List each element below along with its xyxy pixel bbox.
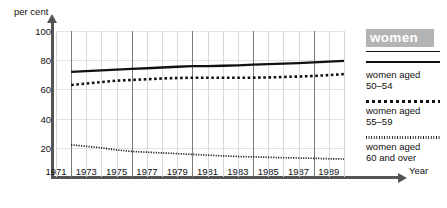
legend-divider bbox=[366, 51, 440, 52]
legend-item: women aged 60 and over bbox=[366, 136, 444, 163]
y-tick-label: 100 bbox=[17, 26, 51, 37]
vertical-gridline bbox=[344, 31, 345, 177]
series-line bbox=[71, 74, 344, 85]
y-tick-label: 80 bbox=[17, 55, 51, 66]
y-tick-label: 40 bbox=[17, 113, 51, 124]
y-axis-line bbox=[51, 22, 54, 178]
y-axis-ticks: 20406080100 bbox=[0, 0, 51, 208]
legend-entries: women aged 50–54women aged 55–59women ag… bbox=[366, 61, 444, 163]
chart-figure: per cent Year 20406080100 19711973197519… bbox=[0, 0, 447, 208]
legend-item-label: women aged 50–54 bbox=[366, 69, 444, 91]
x-axis-arrow-icon bbox=[398, 173, 407, 183]
legend-title-badge: women bbox=[366, 29, 434, 47]
legend-item: women aged 50–54 bbox=[366, 61, 444, 91]
series-lines bbox=[56, 31, 344, 177]
y-tick-label: 20 bbox=[17, 142, 51, 153]
series-line bbox=[71, 61, 344, 72]
legend-line-swatch bbox=[366, 136, 440, 139]
legend-item-label: women aged 55–59 bbox=[366, 105, 444, 127]
legend-item-label: women aged 60 and over bbox=[366, 141, 444, 163]
series-line bbox=[71, 145, 344, 159]
y-tick-label: 60 bbox=[17, 84, 51, 95]
legend-line-swatch bbox=[366, 100, 440, 103]
legend-item: women aged 55–59 bbox=[366, 100, 444, 127]
legend-line-swatch bbox=[366, 61, 440, 67]
x-axis-title: Year bbox=[409, 165, 428, 176]
plot-area bbox=[56, 31, 344, 177]
legend: women women aged 50–54women aged 55–59wo… bbox=[366, 29, 444, 163]
